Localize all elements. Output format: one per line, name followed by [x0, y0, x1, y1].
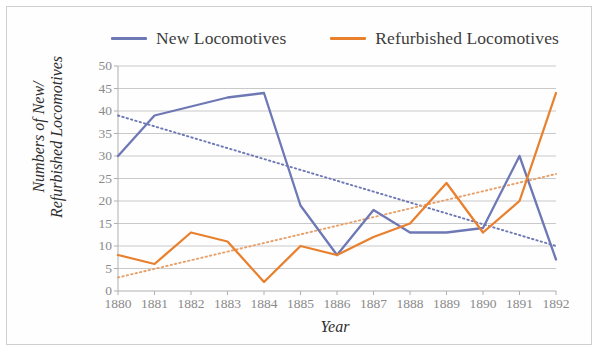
x-tick-label-1886: 1886: [324, 296, 351, 312]
series-line-new-locomotives: [118, 93, 556, 260]
x-tick-label-1887: 1887: [360, 296, 387, 312]
plot-svg: [118, 66, 556, 291]
legend-label-new-locomotives: New Locomotives: [156, 28, 286, 49]
y-tick-label-50: 50: [86, 58, 112, 74]
chart-figure: New Locomotives Refurbished Locomotives …: [0, 0, 599, 352]
y-tick-label-20: 20: [86, 193, 112, 209]
y-tick-label-35: 35: [86, 126, 112, 142]
legend-swatch-refurbished-locomotives: [330, 37, 366, 40]
legend-label-refurbished-locomotives: Refurbished Locomotives: [375, 28, 559, 49]
y-tick-label-40: 40: [86, 103, 112, 119]
x-tick-label-1880: 1880: [105, 296, 132, 312]
x-tick-label-1892: 1892: [543, 296, 570, 312]
x-tick-label-1881: 1881: [141, 296, 168, 312]
plot-area: [118, 66, 556, 291]
chart-legend: New Locomotives Refurbished Locomotives: [110, 24, 560, 52]
legend-item-new-locomotives[interactable]: New Locomotives: [111, 28, 286, 49]
x-axis-tick-labels: 1880188118821883188418851886188718881889…: [118, 294, 556, 314]
y-tick-label-15: 15: [86, 216, 112, 232]
y-tick-label-5: 5: [86, 261, 112, 277]
legend-swatch-new-locomotives: [111, 37, 147, 40]
x-axis-title: Year: [110, 318, 560, 336]
y-tick-label-30: 30: [86, 148, 112, 164]
legend-item-refurbished-locomotives[interactable]: Refurbished Locomotives: [330, 28, 559, 49]
x-tick-label-1890: 1890: [470, 296, 497, 312]
x-tick-label-1883: 1883: [214, 296, 241, 312]
x-tick-label-1882: 1882: [178, 296, 205, 312]
x-tick-label-1888: 1888: [397, 296, 424, 312]
y-tick-label-25: 25: [86, 171, 112, 187]
y-axis-tick-labels: 05101520253035404550: [84, 66, 112, 291]
y-tick-label-45: 45: [86, 81, 112, 97]
x-tick-label-1889: 1889: [433, 296, 460, 312]
x-tick-label-1884: 1884: [251, 296, 278, 312]
x-tick-label-1885: 1885: [287, 296, 314, 312]
x-tick-label-1891: 1891: [506, 296, 533, 312]
y-tick-label-10: 10: [86, 238, 112, 254]
